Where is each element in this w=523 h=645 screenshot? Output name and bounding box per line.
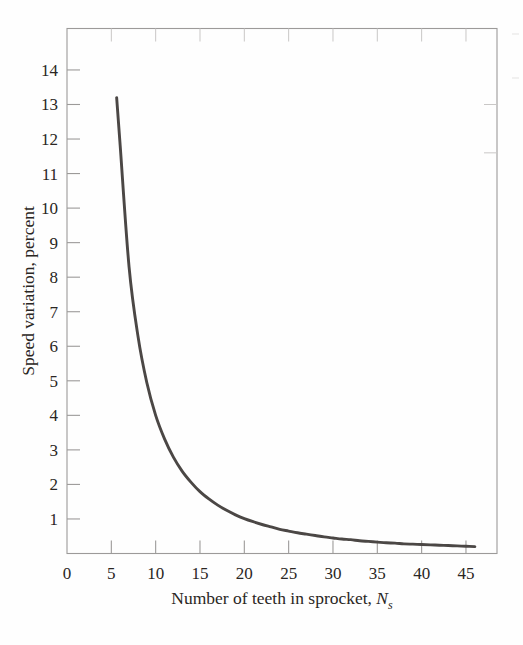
y-tick-label: 6: [50, 337, 59, 356]
x-tick-label: 20: [236, 564, 253, 583]
x-tick-label: 10: [147, 564, 164, 583]
y-tick-label: 11: [42, 165, 58, 184]
svg-text:Number of teeth in sprocket, N: Number of teeth in sprocket, Ns: [171, 588, 393, 612]
x-tick-label: 15: [191, 564, 208, 583]
y-tick-label: 9: [50, 234, 59, 253]
x-axis-tickmarks: [111, 541, 466, 554]
x-tick-label: 45: [457, 564, 474, 583]
x-axis-title: Number of teeth in sprocket, Ns: [171, 588, 393, 612]
y-tick-label: 2: [50, 475, 59, 494]
chart-canvas: 1234567891011121314 051015202530354045 S…: [0, 0, 523, 645]
y-tick-label: 1: [50, 510, 59, 529]
y-tick-label: 7: [50, 303, 59, 322]
x-tick-label: 0: [63, 564, 72, 583]
y-axis-tickmarks: [67, 70, 80, 519]
y-tick-label: 8: [50, 268, 59, 287]
y-tick-label: 3: [50, 441, 59, 460]
x-tick-label: 35: [369, 564, 386, 583]
y-axis-title: Speed variation, percent: [18, 206, 38, 376]
x-tick-label: 30: [324, 564, 341, 583]
y-tick-label: 12: [41, 130, 58, 149]
y-tick-label: 13: [41, 95, 58, 114]
x-tick-label: 25: [280, 564, 297, 583]
y-tick-label: 10: [41, 199, 58, 218]
x-tick-label: 40: [413, 564, 430, 583]
x-axis-tick-labels: 051015202530354045: [63, 564, 475, 583]
x-axis-title-subscript: s: [388, 598, 393, 612]
y-tick-label: 5: [50, 372, 59, 391]
y-tick-label: 14: [41, 61, 59, 80]
y-axis-tick-labels: 1234567891011121314: [41, 61, 59, 529]
right-axis-tickmarks: [484, 104, 497, 152]
speed-variation-curve: [117, 98, 475, 547]
page-edge-artifact: [512, 34, 519, 78]
top-axis-tickmarks: [111, 29, 466, 42]
x-tick-label: 5: [107, 564, 116, 583]
x-axis-title-main: Number of teeth in sprocket,: [171, 588, 372, 608]
y-tick-label: 4: [50, 406, 59, 425]
figure-chain-speed-variation: 1234567891011121314 051015202530354045 S…: [0, 0, 523, 645]
